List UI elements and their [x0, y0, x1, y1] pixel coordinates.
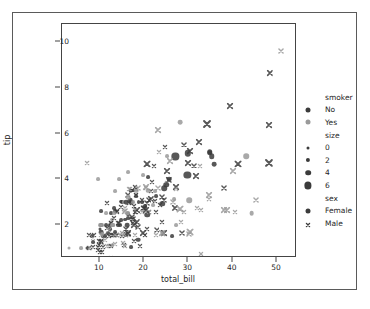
- x-tick-mark: [231, 257, 232, 262]
- legend-item[interactable]: 0: [303, 141, 369, 154]
- x-tick-label: 50: [271, 263, 281, 272]
- legend-circle-icon: [306, 120, 311, 125]
- x-tick-mark: [187, 257, 188, 262]
- figure-frame: 246810 1020304050 tip total_bill smokerN…: [12, 12, 357, 290]
- y-axis-label: tip: [3, 135, 12, 145]
- legend: smokerNoYessize0246sexFemaleMale: [303, 91, 369, 230]
- legend-title-text: smoker: [303, 93, 353, 102]
- x-tick-mark: [276, 257, 277, 262]
- x-axis-label: total_bill: [161, 275, 195, 284]
- legend-item[interactable]: Yes: [303, 116, 369, 129]
- legend-section-title: size: [303, 129, 369, 142]
- x-tick-label: 20: [138, 263, 148, 272]
- legend-section-title: sex: [303, 192, 369, 205]
- legend-item[interactable]: 2: [303, 154, 369, 167]
- legend-circle-icon: [306, 107, 311, 112]
- legend-section-title: smoker: [303, 91, 369, 104]
- legend-title-text: size: [303, 131, 340, 140]
- legend-cross-icon: [306, 221, 311, 226]
- legend-item[interactable]: No: [303, 104, 369, 117]
- legend-circle-icon: [305, 170, 311, 176]
- legend-title-text: sex: [303, 194, 338, 203]
- x-tick-label: 40: [227, 263, 237, 272]
- legend-item[interactable]: Female: [303, 204, 369, 217]
- x-tick-mark: [98, 257, 99, 262]
- legend-circle-icon: [306, 208, 311, 213]
- x-tick-label: 10: [94, 263, 104, 272]
- legend-circle-icon: [307, 146, 310, 149]
- x-tick-mark: [143, 257, 144, 262]
- legend-item[interactable]: Male: [303, 217, 369, 230]
- x-tick-label: 30: [183, 263, 193, 272]
- legend-item[interactable]: 4: [303, 167, 369, 180]
- legend-item[interactable]: 6: [303, 179, 369, 192]
